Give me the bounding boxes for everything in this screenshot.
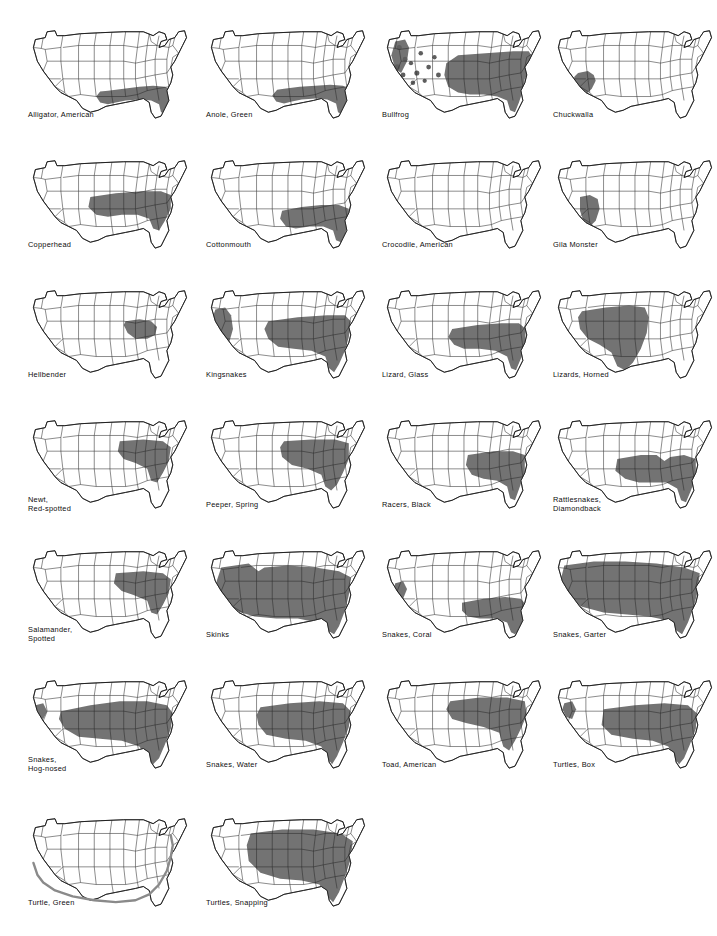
map-cell-skinks: Skinks xyxy=(198,538,374,668)
range-dot xyxy=(436,72,441,77)
range-dot xyxy=(426,65,431,70)
us-range-map-snakes-coral xyxy=(374,538,550,644)
us-range-map-turtles-snapping xyxy=(198,806,374,912)
us-range-map-racers-black xyxy=(374,408,550,514)
map-cell-cottonmouth: Cottonmouth xyxy=(198,148,374,278)
map-cell-bullfrog: Bullfrog xyxy=(374,18,550,148)
range-dot xyxy=(432,55,436,59)
map-label-toad-american: Toad, American xyxy=(382,760,436,769)
map-label-skinks: Skinks xyxy=(206,630,229,639)
map-label-hellbender: Hellbender xyxy=(28,370,66,379)
map-label-snakes-garter: Snakes, Garter xyxy=(553,630,606,639)
us-range-map-crocodile-american xyxy=(374,148,550,254)
map-label-newt-red-spotted: Newt, Red-spotted xyxy=(28,495,71,514)
range-shading xyxy=(521,238,526,246)
range-shading xyxy=(280,205,349,242)
map-cell-newt-red-spotted: Newt, Red-spotted xyxy=(20,408,196,538)
map-label-anole-green: Anole, Green xyxy=(206,110,253,119)
map-label-cottonmouth: Cottonmouth xyxy=(206,240,251,249)
us-range-map-bullfrog xyxy=(374,18,550,124)
map-label-turtle-green: Turtle, Green xyxy=(28,898,75,907)
map-label-gila-monster: Gila Monster xyxy=(553,240,598,249)
us-range-map-skinks xyxy=(198,538,374,644)
map-cell-lizard-glass: Lizard, Glass xyxy=(374,278,550,408)
us-range-map-cottonmouth xyxy=(198,148,374,254)
map-label-bullfrog: Bullfrog xyxy=(382,110,409,119)
map-cell-turtles-snapping: Turtles, Snapping xyxy=(198,806,374,936)
us-range-map-copperhead xyxy=(20,148,196,254)
map-label-kingsnakes: Kingsnakes xyxy=(206,370,247,379)
us-range-map-lizard-glass xyxy=(374,278,550,384)
us-range-map-chuckwalla xyxy=(545,18,717,124)
map-cell-alligator-american: Alligator, American xyxy=(20,18,196,148)
range-area xyxy=(521,238,526,246)
map-cell-snakes-hog-nosed: Snakes, Hog-nosed xyxy=(20,668,196,798)
us-range-map-anole-green xyxy=(198,18,374,124)
map-label-copperhead: Copperhead xyxy=(28,240,71,249)
map-cell-snakes-garter: Snakes, Garter xyxy=(545,538,717,668)
map-label-snakes-water: Snakes, Water xyxy=(206,760,257,769)
us-range-map-toad-american xyxy=(374,668,550,774)
us-range-map-snakes-water xyxy=(198,668,374,774)
map-cell-turtle-green: Turtle, Green xyxy=(20,806,196,936)
map-cell-crocodile-american: Crocodile, American xyxy=(374,148,550,278)
us-range-map-alligator-american xyxy=(20,18,196,124)
map-label-turtles-box: Turtles, Box xyxy=(553,760,595,769)
map-label-turtles-snapping: Turtles, Snapping xyxy=(206,898,268,907)
map-label-chuckwalla: Chuckwalla xyxy=(553,110,593,119)
us-range-map-turtles-box xyxy=(545,668,717,774)
range-dot xyxy=(419,51,424,56)
map-cell-anole-green: Anole, Green xyxy=(198,18,374,148)
map-cell-gila-monster: Gila Monster xyxy=(545,148,717,278)
map-cell-snakes-water: Snakes, Water xyxy=(198,668,374,798)
map-cell-peeper-spring: Peeper, Spring xyxy=(198,408,374,538)
map-label-racers-black: Racers, Black xyxy=(382,500,431,509)
us-range-map-hellbender xyxy=(20,278,196,384)
range-dot xyxy=(423,79,427,83)
map-label-lizards-horned: Lizards, Horned xyxy=(553,370,609,379)
range-dot xyxy=(409,61,413,65)
map-cell-lizards-horned: Lizards, Horned xyxy=(545,278,717,408)
range-dot xyxy=(414,70,419,75)
range-area xyxy=(280,205,349,242)
range-area xyxy=(462,597,526,634)
map-cell-hellbender: Hellbender xyxy=(20,278,196,408)
map-cell-toad-american: Toad, American xyxy=(374,668,550,798)
map-label-crocodile-american: Crocodile, American xyxy=(382,240,453,249)
range-dot xyxy=(403,57,408,62)
map-cell-turtles-box: Turtles, Box xyxy=(545,668,717,798)
map-cell-copperhead: Copperhead xyxy=(20,148,196,278)
us-range-map-kingsnakes xyxy=(198,278,374,384)
us-range-map-turtle-green xyxy=(20,806,196,912)
us-range-map-lizards-horned xyxy=(545,278,717,384)
map-label-snakes-coral: Snakes, Coral xyxy=(382,630,432,639)
map-cell-rattlesnakes-diamondback: Rattlesnakes, Diamondback xyxy=(545,408,717,538)
map-label-rattlesnakes-diamondback: Rattlesnakes, Diamondback xyxy=(553,495,601,514)
map-label-alligator-american: Alligator, American xyxy=(28,110,94,119)
map-cell-snakes-coral: Snakes, Coral xyxy=(374,538,550,668)
us-range-map-peeper-spring xyxy=(198,408,374,514)
us-range-map-gila-monster xyxy=(545,148,717,254)
map-cell-salamander-spotted: Salamander, Spotted xyxy=(20,538,196,668)
map-label-lizard-glass: Lizard, Glass xyxy=(382,370,428,379)
map-cell-racers-black: Racers, Black xyxy=(374,408,550,538)
map-label-salamander-spotted: Salamander, Spotted xyxy=(28,625,72,644)
map-label-peeper-spring: Peeper, Spring xyxy=(206,500,258,509)
map-cell-kingsnakes: Kingsnakes xyxy=(198,278,374,408)
us-range-map-snakes-garter xyxy=(545,538,717,644)
map-cell-chuckwalla: Chuckwalla xyxy=(545,18,717,148)
map-label-snakes-hog-nosed: Snakes, Hog-nosed xyxy=(28,755,66,774)
